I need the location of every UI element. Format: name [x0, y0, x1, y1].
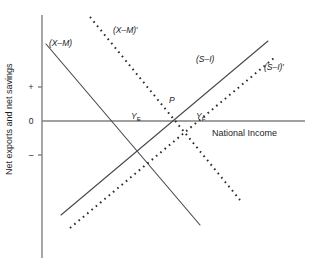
label-s-minus-i-prime-base: (S–I) [264, 62, 283, 72]
label-point-p: P [169, 95, 175, 105]
curve-x-minus-m-prime [90, 17, 240, 200]
economics-diagram: + 0 – Net exports and net savings Nation… [0, 0, 318, 268]
curve-x-minus-m [46, 44, 200, 225]
label-s-minus-i: (S–I) [196, 54, 215, 64]
x-axis-title: National Income [212, 128, 277, 138]
label-y-equilibrium-subscript: E [137, 115, 141, 122]
label-y-equilibrium: YE [131, 111, 141, 122]
label-s-minus-i-prime-mark: ′ [282, 62, 284, 72]
tick-label-zero: 0 [29, 116, 34, 126]
tick-label-plus: + [29, 82, 34, 92]
label-x-minus-m-prime-base: (X–M) [113, 25, 136, 35]
y-axis-title: Net exports and net savings [4, 63, 14, 175]
label-s-minus-i-prime: (S–I)′ [264, 62, 284, 72]
tick-label-minus: – [29, 150, 34, 160]
label-x-minus-m-prime: (X–M)′ [113, 25, 138, 35]
label-x-minus-m-prime-mark: ′ [136, 25, 138, 35]
diagram-canvas: + 0 – Net exports and net savings Nation… [0, 0, 318, 268]
curve-s-minus-i-prime [70, 58, 274, 228]
label-y-full-employment-subscript: F [202, 115, 206, 122]
label-y-full-employment: YF [196, 111, 206, 122]
label-x-minus-m: (X–M) [49, 38, 72, 48]
